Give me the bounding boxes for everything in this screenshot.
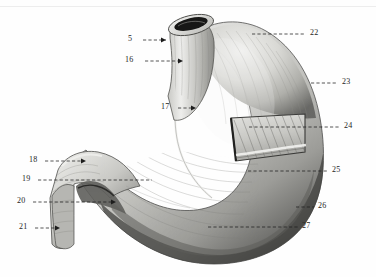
label-17: 17 <box>161 103 169 111</box>
label-25: 25 <box>332 166 340 174</box>
label-16: 16 <box>125 56 133 64</box>
anatomical-plate: 5 16 17 18 19 20 21 22 23 24 25 26 27 <box>0 0 376 277</box>
label-26: 26 <box>318 202 326 210</box>
label-21: 21 <box>19 223 27 231</box>
label-22: 22 <box>310 29 318 37</box>
stomach-illustration <box>0 0 376 277</box>
label-19: 19 <box>22 175 30 183</box>
label-23: 23 <box>342 78 350 86</box>
arrow-5 <box>161 38 166 43</box>
label-27: 27 <box>302 222 310 230</box>
label-24: 24 <box>344 122 352 130</box>
label-20: 20 <box>17 197 25 205</box>
label-5: 5 <box>128 35 132 43</box>
descending-duodenum <box>52 184 74 248</box>
label-18: 18 <box>29 156 37 164</box>
